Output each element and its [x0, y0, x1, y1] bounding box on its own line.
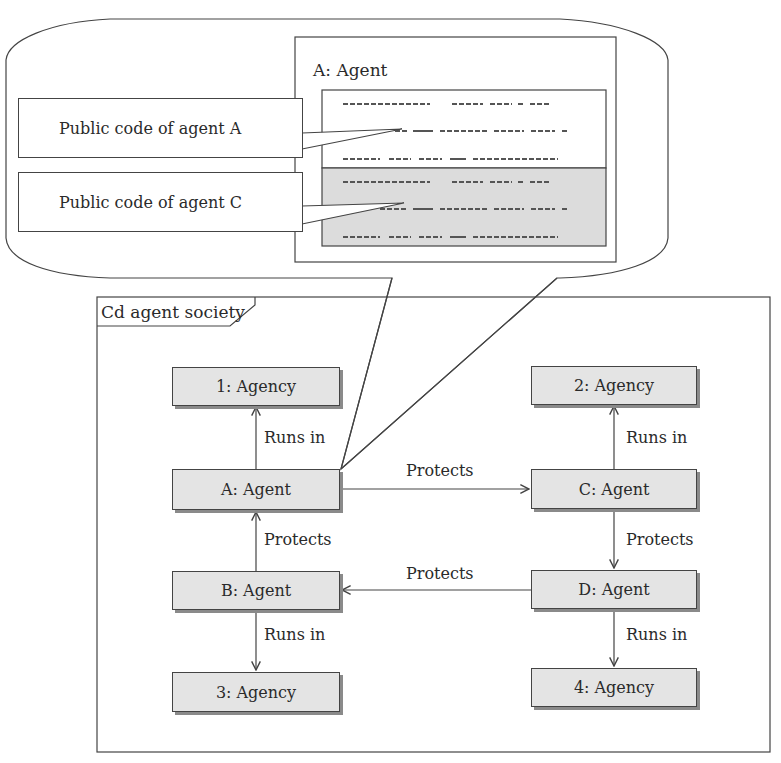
node-agency-3[interactable]: 3: Agency	[172, 672, 340, 712]
node-agent-c[interactable]: C: Agent	[531, 469, 697, 509]
callout-public-code-c: Public code of agent C	[18, 172, 303, 232]
edge-label-b-runs-in-3: Runs in	[264, 627, 325, 643]
edge-label-a-protects-c: Protects	[406, 463, 474, 479]
node-agency-1-label: 1: Agency	[216, 377, 296, 396]
node-agency-2-label: 2: Agency	[574, 376, 654, 395]
node-agent-a-label: A: Agent	[221, 480, 291, 499]
node-agent-b[interactable]: B: Agent	[172, 571, 340, 610]
edge-label-b-protects-a: Protects	[264, 532, 332, 548]
node-agency-4[interactable]: 4: Agency	[531, 668, 697, 707]
node-agent-c-label: C: Agent	[579, 480, 650, 499]
node-agency-2[interactable]: 2: Agency	[531, 366, 697, 405]
callout-public-code-a-label: Public code of agent A	[59, 119, 241, 138]
zoomed-agent-title: A: Agent	[313, 62, 387, 79]
society-frame-title: Cd agent society	[101, 304, 245, 321]
node-agent-a[interactable]: A: Agent	[172, 469, 340, 510]
edge-label-c-runs-in-2: Runs in	[626, 430, 687, 446]
callout-public-code-a: Public code of agent A	[18, 98, 303, 158]
node-agent-d-label: D: Agent	[578, 580, 649, 599]
edge-label-c-protects-d: Protects	[626, 532, 694, 548]
callout-public-code-c-label: Public code of agent C	[59, 193, 242, 212]
node-agent-b-label: B: Agent	[221, 581, 291, 600]
node-agent-d[interactable]: D: Agent	[531, 570, 697, 609]
node-agency-3-label: 3: Agency	[216, 683, 296, 702]
node-agency-1[interactable]: 1: Agency	[172, 367, 340, 406]
public-code-a-panel	[322, 90, 606, 168]
node-agency-4-label: 4: Agency	[574, 678, 654, 697]
edge-label-d-runs-in-4: Runs in	[626, 627, 687, 643]
edge-label-a-runs-in-1: Runs in	[264, 430, 325, 446]
edge-label-d-protects-b: Protects	[406, 566, 474, 582]
